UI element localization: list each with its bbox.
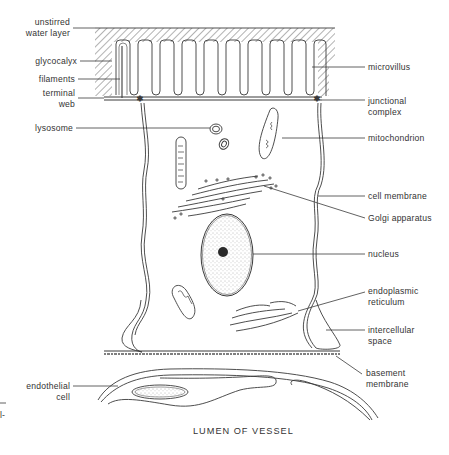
endothelial-cell-shape: [98, 369, 378, 420]
microvilli: [116, 40, 326, 98]
label-endoplasmic-reticulum: endoplasmic reticulum: [368, 286, 418, 307]
caption-lumen-of-vessel: LUMEN OF VESSEL: [193, 426, 294, 436]
label-golgi-apparatus: Golgi apparatus: [368, 213, 432, 224]
label-nucleus: nucleus: [368, 249, 399, 260]
svg-text:✲: ✲: [137, 95, 143, 103]
label-endothelial-cell: endothelial cell: [26, 381, 70, 402]
label-cell-membrane: cell membrane: [368, 191, 427, 202]
label-glycocalyx: glycocalyx: [35, 56, 77, 67]
lysosomes: [210, 124, 231, 151]
label-mitochondrion: mitochondrion: [368, 133, 425, 144]
basement-membrane-line: [104, 351, 340, 354]
label-terminal-web: terminal web: [43, 88, 75, 109]
label-microvillus: microvillus: [368, 62, 410, 73]
label-filaments: filaments: [39, 74, 75, 85]
label-unstirred-water-layer: unstirred water layer: [26, 17, 70, 38]
golgi-apparatus-shape: [172, 174, 277, 219]
unstirred-water-layer-shape: [95, 28, 335, 96]
label-lysosome: lysosome: [35, 123, 73, 134]
label-intercellular-space: intercellular space: [368, 325, 415, 346]
nucleus-shape: [201, 214, 253, 296]
label-basement-membrane: basement membrane: [366, 368, 409, 389]
terminal-web-band: ✲ ✲: [104, 95, 322, 103]
label-junctional-complex: junctional complex: [368, 96, 406, 117]
edge-fragment: l-: [0, 410, 5, 421]
svg-text:✲: ✲: [314, 95, 320, 103]
endoplasmic-reticulum-shape: [230, 302, 298, 331]
